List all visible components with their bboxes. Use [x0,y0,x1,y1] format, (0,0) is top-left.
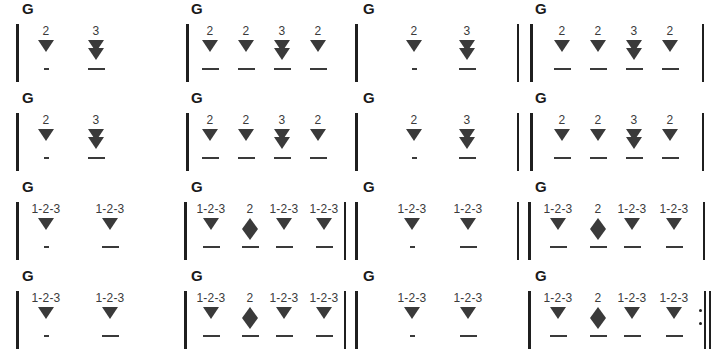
up-down-stroke-arrow-icon [590,218,606,242]
underline-mark [242,335,259,337]
underline-mark [590,335,607,337]
strum-stroke [444,307,492,333]
beat-column: 2 [22,113,70,175]
underline-mark [274,157,291,159]
underline-mark [88,68,105,70]
double-downstroke-arrow-icon [459,129,475,153]
double-downstroke-arrow-icon [88,40,104,64]
chord-label: G [22,1,34,17]
beat-count-label: 1-2-3 [650,202,698,216]
strum-stroke [650,218,698,244]
beat-underline [300,335,348,338]
chord-label: G [535,1,547,17]
strum-stroke [72,129,120,155]
downstroke-head [590,229,606,240]
double-downstroke-arrow-icon-wrap [274,129,290,153]
upstroke-head [590,307,606,318]
barline [16,291,19,349]
staff-row: G23G2232G23G2232 [0,89,711,178]
beat-count-label: 2 [294,24,342,38]
downstroke-arrow-icon [102,218,118,230]
downstroke-head-lower [459,137,475,149]
strum-stroke [22,40,70,66]
underline-mark [662,68,679,70]
strum-stroke [388,218,436,244]
beat-underline [22,246,70,249]
downstroke-arrow-icon [310,129,326,141]
strum-stroke [646,40,694,66]
beat-count-label: 1-2-3 [86,291,134,305]
downstroke-arrow-icon [238,40,254,52]
downstroke-arrow-icon [554,129,570,141]
measure: G23 [0,0,178,89]
upstroke-head [590,218,606,229]
barline [355,113,358,171]
chord-label: G [363,1,375,17]
downstroke-head [242,318,258,329]
underline-mark [550,246,567,248]
underline-mark [44,335,49,337]
beat-underline [390,157,438,160]
double-downstroke-arrow-icon-wrap [626,40,642,64]
underline-mark [102,335,119,337]
beat-count-label: 3 [72,24,120,38]
underline-mark [554,68,571,70]
measure: G2232 [522,89,711,178]
underline-mark [44,246,49,248]
downstroke-arrow-icon [662,40,678,52]
downstroke-arrow-icon [202,40,218,52]
barline [528,291,531,349]
strum-stroke [300,218,348,244]
underline-mark [276,335,293,337]
beat-count-label: 1-2-3 [300,202,348,216]
beat-column: 1-2-3 [22,291,70,353]
measure: G1-2-321-2-31-2-3 [178,267,350,356]
beat-underline [390,68,438,71]
underline-mark [238,157,255,159]
repeat-sign [699,291,711,349]
beat-underline [608,335,656,338]
downstroke-arrow-icon [666,307,682,319]
underline-mark [554,157,571,159]
double-downstroke-arrow-icon [274,40,290,64]
downstroke-arrow-icon [590,129,606,141]
underline-mark [624,246,641,248]
downstroke-head-lower [274,48,290,60]
chord-label: G [363,90,375,106]
beat-underline [300,246,348,249]
underline-mark [410,335,415,337]
barline-end [517,24,519,82]
strum-stroke [646,129,694,155]
downstroke-arrow-icon [203,218,219,230]
downstroke-arrow-icon [666,218,682,230]
repeat-barline [704,291,706,349]
double-downstroke-arrow-icon [626,129,642,153]
beat-count-label: 1-2-3 [444,202,492,216]
staff-row: G1-2-31-2-3G1-2-321-2-31-2-3G1-2-31-2-3G… [0,178,711,267]
underline-mark [238,68,255,70]
underline-mark [590,68,607,70]
barline [355,291,358,349]
downstroke-head-lower [88,137,104,149]
beat-column: 1-2-3 [608,202,656,264]
beat-column: 1-2-3 [388,202,436,264]
downstroke-arrow-icon [316,218,332,230]
underline-mark [590,246,607,248]
strum-stroke [650,307,698,333]
beat-column: 1-2-3 [444,202,492,264]
beat-count-label: 2 [294,113,342,127]
chord-label: G [22,90,34,106]
measure: G1-2-321-2-31-2-3 [178,178,350,267]
beat-count-label: 1-2-3 [300,291,348,305]
underline-mark [202,68,219,70]
downstroke-arrow-icon [460,307,476,319]
barline-end [517,202,519,260]
strum-stroke [86,307,134,333]
underline-mark [102,246,119,248]
downstroke-arrow-icon [276,307,292,319]
measure: G23 [350,89,522,178]
downstroke-head-lower [88,48,104,60]
underline-mark [550,335,567,337]
downstroke-arrow-icon [590,40,606,52]
beat-count-label: 2 [646,24,694,38]
